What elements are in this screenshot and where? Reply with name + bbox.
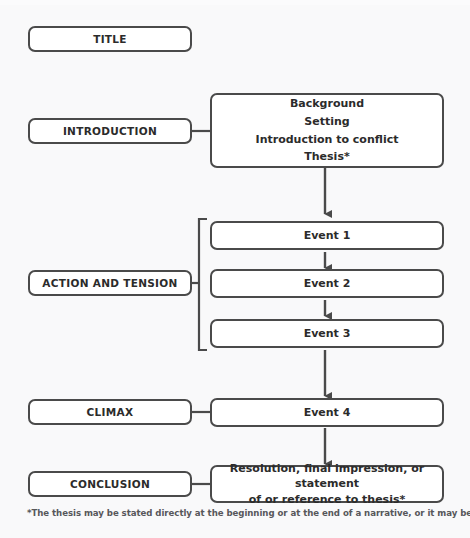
node-stage-conclusion: CONCLUSION xyxy=(28,471,192,497)
node-title: TITLE xyxy=(28,26,192,52)
stage-label-action-and-tension: ACTION AND TENSION xyxy=(42,277,177,289)
node-event-4: Event 4 xyxy=(210,398,444,427)
footnote-text: *The thesis may be stated directly at th… xyxy=(27,508,451,518)
stage-label-climax: CLIMAX xyxy=(87,406,134,418)
conclusion-line-2: of or reference to thesis* xyxy=(249,492,405,508)
node-title-label: TITLE xyxy=(93,33,127,45)
node-conclusion-content: Resolution, final impression, or stateme… xyxy=(210,465,444,503)
event-2-label: Event 2 xyxy=(304,277,351,290)
event-1-label: Event 1 xyxy=(304,229,351,242)
bracket-action-and-tension xyxy=(199,219,207,350)
event-3-label: Event 3 xyxy=(304,327,351,340)
node-event-1: Event 1 xyxy=(210,221,444,250)
flowchart-diagram: TITLE INTRODUCTION Background Setting In… xyxy=(0,0,470,538)
node-stage-action-and-tension: ACTION AND TENSION xyxy=(28,270,192,296)
node-event-2: Event 2 xyxy=(210,269,444,298)
stage-label-conclusion: CONCLUSION xyxy=(70,478,150,490)
event-4-label: Event 4 xyxy=(304,406,351,419)
introduction-line-background: Background xyxy=(290,95,364,113)
node-stage-climax: CLIMAX xyxy=(28,399,192,425)
node-introduction-content: Background Setting Introduction to confl… xyxy=(210,93,444,168)
stage-label-introduction: INTRODUCTION xyxy=(63,125,157,137)
introduction-line-thesis: Thesis* xyxy=(304,148,349,166)
node-stage-introduction: INTRODUCTION xyxy=(28,118,192,144)
introduction-line-setting: Setting xyxy=(304,113,349,131)
conclusion-line-1: Resolution, final impression, or stateme… xyxy=(212,461,442,492)
top-edge-bleed xyxy=(0,0,470,5)
node-event-3: Event 3 xyxy=(210,319,444,348)
introduction-line-conflict: Introduction to conflict xyxy=(256,131,399,149)
